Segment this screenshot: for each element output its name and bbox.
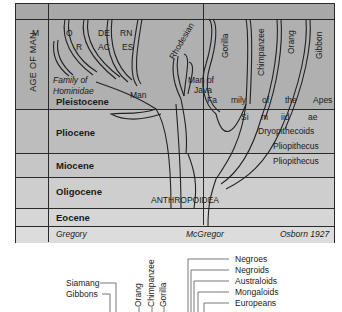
label-man: Man	[130, 90, 147, 100]
label-pliopithecus-2: Pliopithecus	[273, 156, 319, 166]
label-man-of: Man of	[188, 75, 214, 85]
label-australoids: Australoids	[235, 276, 277, 286]
label-fa: Fa	[207, 95, 217, 105]
lower-tree: Siamang Gibbons Orang Chimpanzee Gorilla…	[0, 243, 342, 312]
label-chimpanzee: Chimpanzee	[256, 28, 266, 76]
label-DE: DE	[98, 28, 110, 38]
label-si: Si	[241, 112, 249, 122]
label-family-of: Family of	[53, 75, 87, 85]
label-siamang: Siamang	[66, 278, 100, 288]
label-negroids: Negroids	[235, 265, 269, 275]
label-of: of	[262, 95, 269, 105]
label-europeans: Europeans	[235, 298, 276, 308]
label-chimpanzee-lower: Chimpanzee	[146, 259, 156, 307]
label-mily: mily	[231, 95, 246, 105]
label-negroes: Negroes	[235, 254, 267, 264]
label-anthropoidea: ANTHROPOIDEA	[151, 195, 219, 205]
credit-osborn: Osborn 1927	[280, 229, 329, 239]
label-gorilla: Gorilla	[220, 33, 230, 58]
label-M: M	[32, 28, 39, 38]
label-orang: Orang	[286, 30, 296, 54]
label-mongaloids: Mongaloids	[235, 287, 278, 297]
label-RN: RN	[120, 28, 132, 38]
label-ES: ES	[122, 42, 133, 52]
label-ae: ae	[308, 112, 317, 122]
label-gibbon: Gibbon	[314, 32, 324, 59]
evolution-chart: AGE OF MAN Pleistocene Pliocene Miocene …	[15, 3, 335, 243]
label-O: O	[66, 28, 73, 38]
lower-tree-lines	[0, 243, 342, 312]
label-gibbons: Gibbons	[66, 289, 98, 299]
credit-mcgregor: McGregor	[186, 229, 224, 239]
label-the: the	[285, 95, 297, 105]
label-dryopithecoids: Dryopithecoids	[258, 126, 314, 136]
label-java: Java	[194, 85, 212, 95]
label-hominidae: Hominidae	[53, 86, 94, 96]
label-apes: Apes	[313, 95, 332, 105]
label-pliopithecus-1: Pliopithecus	[273, 141, 319, 151]
label-R: R	[76, 42, 82, 52]
label-orang-lower: Orang	[133, 283, 143, 307]
label-AC: AC	[98, 42, 110, 52]
credit-gregory: Gregory	[56, 229, 87, 239]
label-gorilla-lower: Gorilla	[158, 282, 168, 307]
label-iid: iid	[281, 112, 290, 122]
label-m: m	[261, 112, 268, 122]
